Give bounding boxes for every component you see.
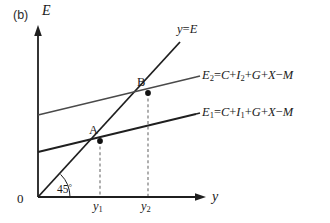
xtick-y2-sub: 2 — [147, 204, 151, 214]
origin-label: 0 — [17, 192, 24, 205]
xtick-label-y1: y1 — [93, 200, 103, 214]
panel-tag: (b) — [13, 9, 28, 22]
e2-equals: = — [214, 68, 221, 82]
e2-lhs-base: E — [202, 68, 210, 82]
ye-equals: = — [183, 22, 190, 36]
e2-plus-3: + — [261, 68, 268, 82]
leader-e2 — [196, 76, 200, 77]
horizontal-axis-label: y — [212, 190, 218, 204]
vertical-axis — [34, 25, 42, 197]
leader-e1 — [196, 113, 200, 114]
e1-term-g: G — [252, 105, 261, 119]
angle-label: 45° — [57, 183, 72, 196]
horizontal-axis-arrowhead — [195, 193, 206, 201]
e2-minus: − — [276, 68, 283, 82]
ye-rhs: E — [190, 22, 198, 36]
e2-term-g: G — [252, 68, 261, 82]
point-label-a: A — [89, 124, 98, 137]
e1-lhs-base: E — [202, 105, 210, 119]
e2-term-x: X — [268, 68, 276, 82]
e1-equals: = — [214, 105, 221, 119]
point-label-b: B — [137, 76, 145, 89]
expenditure-line-2 — [38, 77, 196, 115]
e2-plus-2: + — [245, 68, 252, 82]
vertical-axis-arrowhead — [34, 25, 42, 36]
e1-plus-3: + — [261, 105, 268, 119]
e1-plus-2: + — [245, 105, 252, 119]
e1-term-x: X — [268, 105, 276, 119]
xtick-label-y2: y2 — [141, 200, 151, 214]
degree-symbol: ° — [69, 182, 73, 192]
equilibrium-point-b — [145, 90, 151, 96]
angle-value: 45 — [57, 183, 69, 195]
line-label-e1: E1=C+I1+G+X−M — [202, 106, 293, 120]
e1-minus: − — [276, 105, 283, 119]
e2-term-m: M — [283, 68, 293, 82]
line-label-y-equals-e: y=E — [177, 23, 197, 36]
expenditure-line-1 — [38, 114, 196, 152]
e1-term-m: M — [283, 105, 293, 119]
xtick-y1-sub: 1 — [99, 204, 103, 214]
equilibrium-point-a — [97, 138, 103, 144]
line-label-e2: E2=C+I2+G+X−M — [202, 69, 293, 83]
forty-five-degree-line — [38, 42, 180, 197]
expenditure-equilibrium-figure: (b) E y 0 45° y1 y2 A B y=E E2=C+I2+G+X−… — [0, 0, 330, 223]
vertical-axis-label: E — [42, 4, 51, 18]
